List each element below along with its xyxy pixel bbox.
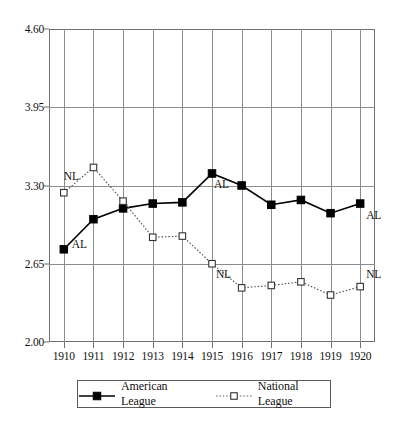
x-axis-tick-mark bbox=[331, 342, 332, 348]
series-annotation-al: AL bbox=[72, 238, 87, 250]
x-axis-tick-label: 1917 bbox=[260, 350, 282, 362]
x-axis-tick-mark bbox=[64, 342, 65, 348]
data-point-marker bbox=[149, 200, 157, 208]
data-point-marker bbox=[356, 200, 364, 208]
plot-area: NLALALNLALNL bbox=[49, 29, 375, 342]
data-point-marker bbox=[327, 292, 334, 299]
x-axis-tick-mark bbox=[212, 342, 213, 348]
x-axis-tick-label: 1911 bbox=[83, 350, 105, 362]
series-annotation-al: AL bbox=[366, 209, 381, 221]
series-annotation-nl: NL bbox=[64, 170, 79, 182]
y-axis-tick-label: 3.30 bbox=[25, 180, 44, 192]
x-axis-tick-mark bbox=[93, 342, 94, 348]
series-line bbox=[64, 167, 360, 295]
x-axis-tick-label: 1914 bbox=[171, 350, 193, 362]
data-point-marker bbox=[60, 246, 68, 254]
data-point-marker bbox=[120, 198, 127, 205]
x-axis-tick-label: 1910 bbox=[53, 350, 75, 362]
x-axis: 1910191119121913191419151916191719181919… bbox=[49, 342, 375, 368]
data-point-marker bbox=[149, 234, 156, 241]
x-axis-tick-label: 1919 bbox=[319, 350, 341, 362]
x-axis-tick-label: 1918 bbox=[290, 350, 312, 362]
data-point-marker bbox=[297, 196, 305, 204]
data-point-marker bbox=[238, 182, 246, 190]
legend-marker-open-square-icon bbox=[215, 388, 253, 400]
series-al bbox=[60, 170, 364, 253]
series-nl bbox=[61, 164, 364, 298]
data-point-marker bbox=[90, 164, 97, 171]
data-point-marker bbox=[298, 279, 305, 286]
y-axis-tick-label: 4.60 bbox=[25, 23, 44, 35]
legend-label: National League bbox=[258, 379, 330, 409]
data-point-marker bbox=[61, 189, 68, 196]
data-point-marker bbox=[90, 215, 98, 223]
series-annotation-nl: NL bbox=[216, 268, 231, 280]
data-point-marker bbox=[327, 209, 335, 217]
x-axis-tick-mark bbox=[271, 342, 272, 348]
x-axis-tick-label: 1920 bbox=[349, 350, 371, 362]
series-annotation-nl: NL bbox=[366, 268, 381, 280]
x-axis-tick-mark bbox=[182, 342, 183, 348]
legend-entry: American League bbox=[78, 379, 199, 409]
x-axis-tick-mark bbox=[360, 342, 361, 348]
x-axis-tick-mark bbox=[153, 342, 154, 348]
data-point-marker bbox=[179, 199, 187, 207]
y-axis: 2.002.653.303.954.60 bbox=[0, 29, 44, 342]
legend-label: American League bbox=[121, 379, 199, 409]
data-point-marker bbox=[357, 283, 364, 290]
data-point-marker bbox=[119, 205, 127, 213]
y-axis-tick-label: 2.00 bbox=[25, 336, 44, 348]
data-point-marker bbox=[209, 261, 216, 268]
data-point-marker bbox=[268, 201, 276, 209]
y-axis-tick-label: 3.95 bbox=[25, 101, 44, 113]
series-layer bbox=[49, 29, 375, 342]
x-axis-tick-label: 1915 bbox=[201, 350, 223, 362]
x-axis-tick-label: 1916 bbox=[231, 350, 253, 362]
x-axis-tick-label: 1912 bbox=[112, 350, 134, 362]
x-axis-tick-mark bbox=[301, 342, 302, 348]
legend-marker-filled-square-icon bbox=[78, 388, 116, 400]
data-point-marker bbox=[238, 285, 245, 292]
y-axis-tick-label: 2.65 bbox=[25, 258, 44, 270]
x-axis-tick-mark bbox=[123, 342, 124, 348]
data-point-marker bbox=[208, 170, 216, 178]
legend-entry: National League bbox=[215, 379, 330, 409]
chart-container: 2.002.653.303.954.60 NLALALNLALNL 191019… bbox=[0, 0, 405, 422]
x-axis-tick-label: 1913 bbox=[142, 350, 164, 362]
x-axis-tick-mark bbox=[242, 342, 243, 348]
chart-legend: American LeagueNational League bbox=[77, 380, 331, 408]
series-annotation-al: AL bbox=[214, 178, 229, 190]
data-point-marker bbox=[179, 233, 186, 240]
data-point-marker bbox=[268, 282, 275, 289]
